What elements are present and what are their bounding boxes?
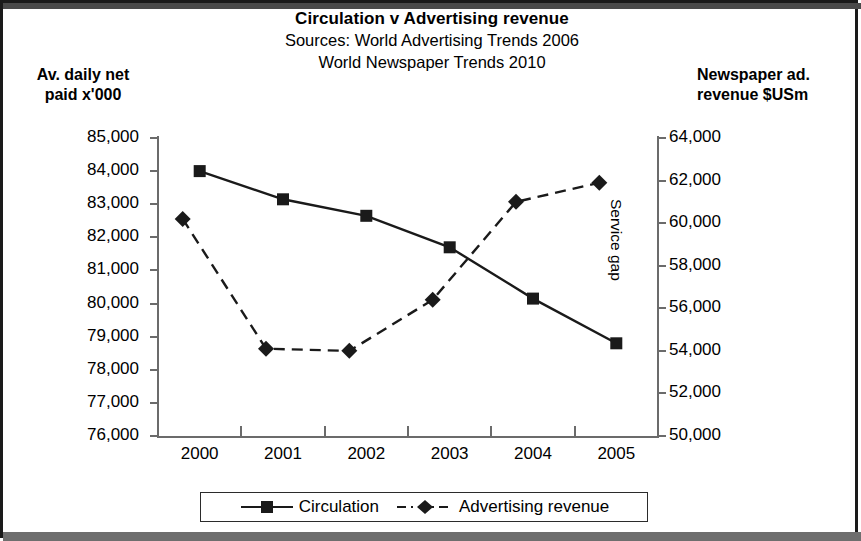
right-axis-tick-label: 64,000 [669,127,789,147]
right-axis-tick [658,180,666,182]
right-axis-tick [658,435,666,437]
x-axis-tick-label: 2000 [155,444,245,464]
legend-solid-square-icon [239,499,295,515]
series-layer [158,138,658,436]
right-axis-title-line-2: revenue $USm [697,85,861,105]
series-line [183,183,600,351]
data-point-square [277,193,289,205]
data-point-square [360,210,372,222]
left-axis-tick-label: 83,000 [19,193,139,213]
left-axis-tick [150,137,158,139]
right-axis-tick-label: 50,000 [669,425,789,445]
left-axis-tick [150,369,158,371]
chart-legend: Circulation Advertising revenue [200,492,648,522]
series-line [200,171,617,343]
right-axis-tick [658,392,666,394]
data-point-diamond [341,343,357,359]
left-axis-tick-label: 77,000 [19,392,139,412]
left-axis-title-line-2: paid x'000 [13,85,153,105]
left-axis-title-line-1: Av. daily net [13,65,153,85]
left-axis-tick-label: 82,000 [19,226,139,246]
x-axis-tick-label: 2002 [321,444,411,464]
data-point-diamond [175,211,191,227]
series-advertising-revenue [175,175,608,359]
right-axis-tick [658,137,666,139]
right-axis-tick-label: 62,000 [669,170,789,190]
right-axis-title-line-1: Newspaper ad. [697,65,861,85]
left-axis-tick-label: 80,000 [19,293,139,313]
left-axis-tick-label: 76,000 [19,425,139,445]
left-axis-tick [150,336,158,338]
right-axis-tick-label: 56,000 [669,297,789,317]
right-axis-tick [658,350,666,352]
right-axis-tick [658,265,666,267]
right-axis-tick [658,307,666,309]
left-axis-tick [150,303,158,305]
legend-label-circulation: Circulation [299,497,379,517]
left-axis-tick [150,170,158,172]
data-point-diamond [591,175,607,191]
left-axis-tick [150,402,158,404]
left-axis-tick-label: 84,000 [19,160,139,180]
data-point-square [527,293,539,305]
left-axis-tick-label: 79,000 [19,326,139,346]
right-axis-tick-label: 60,000 [669,212,789,232]
left-axis-tick [150,236,158,238]
left-axis-tick-label: 81,000 [19,259,139,279]
right-axis-tick-label: 54,000 [669,340,789,360]
data-point-square [610,337,622,349]
left-axis-tick-label: 78,000 [19,359,139,379]
x-axis-tick-label: 2001 [238,444,328,464]
x-axis-tick-label: 2005 [571,444,661,464]
right-axis-tick [658,222,666,224]
legend-dashed-diamond-icon [395,499,455,515]
legend-label-advertising-revenue: Advertising revenue [459,497,609,517]
left-axis-title: Av. daily net paid x'000 [13,65,153,105]
left-axis-tick [150,269,158,271]
x-axis-tick-label: 2004 [488,444,578,464]
right-axis-tick-label: 52,000 [669,382,789,402]
chart-subtitle-line-1: Sources: World Advertising Trends 2006 [3,31,861,50]
left-axis-tick [150,203,158,205]
data-point-square [444,241,456,253]
data-point-square [194,165,206,177]
x-axis-tick-label: 2003 [405,444,495,464]
legend-item-advertising-revenue[interactable]: Advertising revenue [395,497,609,517]
plot-area [158,138,658,436]
right-axis-title: Newspaper ad. revenue $USm [697,65,861,105]
bottom-edge-band [3,532,861,541]
legend-item-circulation[interactable]: Circulation [239,497,379,517]
data-point-diamond [258,341,274,357]
left-axis-tick-label: 85,000 [19,127,139,147]
chart-title: Circulation v Advertising revenue [3,9,861,29]
right-axis-tick-label: 58,000 [669,255,789,275]
